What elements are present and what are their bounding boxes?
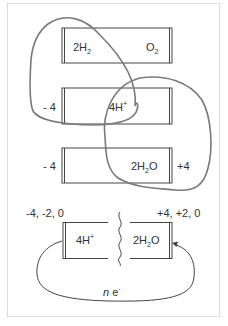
arrowhead-icon xyxy=(172,242,178,248)
cell-top-left-species: 2H2 xyxy=(73,41,91,55)
cell-bottom-right-oxidation: +4 xyxy=(177,160,190,172)
highlight-loop-right xyxy=(104,77,210,190)
redox-diagram: 2H2 O2 - 4 4H+ - 4 2H2O +4 -4, -2, 0 +4,… xyxy=(0,0,228,326)
circuit-right-states: +4, +2, 0 xyxy=(157,207,200,219)
circuit-left-states: -4, -2, 0 xyxy=(26,207,64,219)
membrane-wavy-line xyxy=(119,212,122,266)
cell-bottom-species: 2H2O xyxy=(131,160,158,174)
electron-flow-label: ne- xyxy=(103,285,121,298)
circuit-right-species: 2H2O xyxy=(133,234,160,248)
cell-middle-left-oxidation: - 4 xyxy=(43,101,56,113)
circuit-left-species: 4H+ xyxy=(76,233,94,246)
cell-top: 2H2 O2 xyxy=(62,28,172,63)
cell-middle: - 4 4H+ xyxy=(43,88,172,124)
cell-top-right-species: O2 xyxy=(146,41,159,55)
circuit: -4, -2, 0 +4, +2, 0 4H+ 2H2O ne- xyxy=(26,207,200,301)
cell-bottom-left-oxidation: - 4 xyxy=(43,160,56,172)
cell-bottom: - 4 2H2O +4 xyxy=(43,148,190,183)
